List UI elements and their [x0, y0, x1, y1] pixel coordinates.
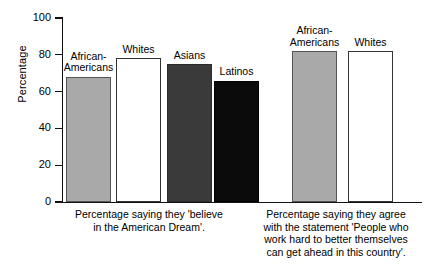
bar-chart-figure: Percentage 100806040200 African- America…: [0, 0, 426, 269]
y-axis-label: Percentage: [16, 14, 28, 134]
bar-african-americans-workhard: [292, 51, 337, 202]
bar-label-asians-dream: Asians: [158, 50, 221, 62]
y-axis-line: [62, 17, 63, 203]
y-tick-label: 0: [45, 196, 51, 207]
bar-african-americans-dream: [66, 77, 111, 202]
bar-asians-dream: [167, 64, 212, 202]
y-tick-label: 80: [39, 49, 51, 60]
y-tick-label: 100: [33, 12, 51, 23]
bar-label-latinos-dream: Latinos: [205, 66, 268, 78]
bar-label-whites-workhard: Whites: [339, 37, 402, 49]
bar-label-african-americans-workhard: African- Americans: [283, 25, 346, 48]
caption-american-dream: Percentage saying they 'believe in the A…: [60, 208, 238, 233]
bar-whites-workhard: [348, 51, 393, 202]
y-tick-mark: [55, 128, 62, 129]
y-tick-mark: [55, 201, 62, 202]
y-tick-label: 60: [39, 86, 51, 97]
y-tick-mark: [55, 91, 62, 92]
x-axis-baseline: [62, 202, 422, 203]
y-tick-label: 20: [39, 159, 51, 170]
y-tick-mark: [55, 165, 62, 166]
bar-latinos-dream: [214, 81, 259, 202]
bar-whites-dream: [116, 58, 161, 202]
y-tick-label: 40: [39, 122, 51, 133]
caption-work-hard: Percentage saying they agree with the st…: [248, 208, 424, 258]
y-tick-mark: [55, 17, 62, 18]
